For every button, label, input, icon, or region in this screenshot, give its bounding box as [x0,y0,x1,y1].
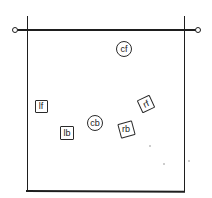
scan-speck [163,163,165,165]
left-wall-line [27,16,29,191]
node-lf-label: lf [39,102,44,111]
node-cf-label: cf [120,45,127,54]
node-lb: lb [60,126,74,140]
diagram-canvas: cf lf lb cb rb rf [0,0,212,198]
node-lf: lf [35,100,48,113]
node-rf: rf [137,95,156,114]
node-rb-label: rb [122,125,130,134]
bottom-wall-line [26,190,185,192]
node-cb-label: cb [90,119,100,128]
rail-right-end-ring-icon [195,27,201,33]
node-cf: cf [116,41,132,57]
scan-speck [188,160,190,162]
node-lb-label: lb [63,129,70,138]
right-wall-line [184,16,186,192]
rail-left-end-ring-icon [12,27,18,33]
top-rail-line [17,29,196,31]
node-rb: rb [117,120,135,138]
node-cb: cb [87,115,103,131]
node-rf-label: rf [142,99,151,109]
scan-speck [149,145,151,147]
